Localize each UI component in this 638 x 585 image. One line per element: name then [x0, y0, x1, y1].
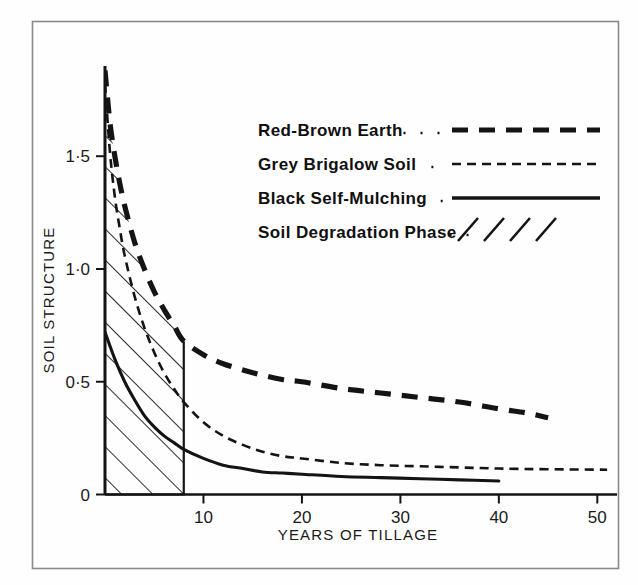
legend-hatch-slash: [484, 218, 504, 241]
y-axis-title: SOIL STRUCTURE: [40, 226, 57, 373]
legend-hatch-slash: [536, 218, 556, 241]
legend-entry: Grey Brigalow Soil: [258, 155, 600, 174]
y-tick-label: 0·5: [65, 373, 90, 392]
x-tick-label: 40: [489, 508, 508, 527]
y-tick-label: 1·5: [65, 147, 90, 166]
legend-entry: Black Self-Mulching: [258, 189, 600, 208]
x-axis-title: YEARS OF TILLAGE: [278, 526, 439, 543]
x-tick-label: 50: [588, 508, 607, 527]
figure-root: 00·51·01·5 1020304050 SOIL STRUCTURE YEA…: [0, 0, 638, 585]
chart-legend: Red-Brown EarthGrey Brigalow SoilBlack S…: [258, 121, 600, 242]
x-tick-label: 10: [194, 508, 213, 527]
x-axis-tick-labels: 1020304050: [194, 508, 607, 527]
soil-structure-chart: 00·51·01·5 1020304050 SOIL STRUCTURE YEA…: [0, 0, 638, 585]
legend-entry: Soil Degradation Phase: [258, 218, 556, 242]
y-tick-label: 1·0: [65, 260, 90, 279]
legend-label: Soil Degradation Phase: [258, 223, 457, 242]
legend-label: Red-Brown Earth: [258, 121, 403, 140]
legend-label: Grey Brigalow Soil: [258, 155, 416, 174]
x-tick-label: 20: [292, 508, 311, 527]
legend-hatch-slash: [510, 218, 530, 241]
y-axis-tick-labels: 00·51·01·5: [65, 147, 90, 504]
x-tick-label: 30: [391, 508, 410, 527]
legend-hatch-slash: [458, 218, 478, 241]
y-tick-label: 0: [81, 486, 90, 505]
x-axis-ticks: [203, 495, 597, 504]
soil-degradation-region: [105, 71, 184, 495]
legend-entry: Red-Brown Earth: [258, 121, 600, 140]
legend-label: Black Self-Mulching: [258, 189, 427, 208]
